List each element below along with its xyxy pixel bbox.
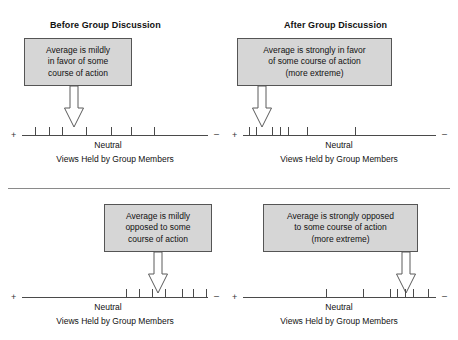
callout-line: Average is mildly (126, 211, 190, 223)
down-arrow-before (63, 86, 85, 130)
callout-line: Average is strongly in favor (263, 45, 365, 57)
axis-tick (326, 289, 327, 297)
axis-tick (139, 289, 140, 297)
callout-line: of some course of action (268, 56, 361, 68)
axis-negative-sign: – (442, 292, 447, 301)
axis-after-opposed: + – (243, 297, 436, 298)
axis-tick (397, 289, 398, 297)
axis-tick (111, 127, 112, 135)
callout-line: Average is strongly opposed (287, 211, 394, 223)
axis-tick (86, 127, 87, 135)
axis-tick (428, 289, 429, 297)
neutral-label-before: Neutral (68, 140, 148, 150)
axis-tick (152, 289, 153, 297)
axis-tick (62, 127, 63, 135)
neutral-label-before-opposed: Neutral (68, 302, 148, 312)
callout-box-after-opposed: Average is strongly opposed to some cour… (263, 204, 418, 252)
axis-tick (131, 127, 132, 135)
axis-tick (249, 127, 250, 135)
horizontal-divider (8, 188, 450, 189)
axis-negative-sign: – (214, 130, 219, 139)
axis-tick (288, 127, 289, 135)
axis-positive-sign: + (232, 131, 237, 140)
axis-tick (307, 127, 308, 135)
axis-tick (413, 289, 414, 297)
neutral-label-after: Neutral (299, 140, 379, 150)
callout-box-before-opposed: Average is mildly opposed to some course… (104, 204, 212, 252)
callout-line: (more extreme) (311, 234, 369, 246)
down-arrow-after (251, 86, 273, 130)
axis-tick (355, 127, 356, 135)
axis-negative-sign: – (214, 292, 219, 301)
axis-tick (363, 289, 364, 297)
axis-tick (49, 127, 50, 135)
axis-line (22, 297, 208, 298)
callout-box-after: Average is strongly in favor of some cou… (237, 38, 392, 86)
panel-before-group-discussion-opposed: Average is mildly opposed to some course… (0, 190, 229, 340)
axis-tick (206, 289, 207, 297)
axis-caption-before-opposed: Views Held by Group Members (25, 316, 205, 326)
axis-positive-sign: + (11, 293, 16, 302)
axis-line (243, 297, 436, 298)
axis-tick (35, 127, 36, 135)
callout-line: course of action (48, 68, 108, 80)
axis-caption-before: Views Held by Group Members (25, 154, 205, 164)
panel-title-before: Before Group Discussion (50, 20, 161, 30)
axis-tick (272, 127, 273, 135)
axis-negative-sign: – (442, 130, 447, 139)
axis-tick (154, 127, 155, 135)
axis-positive-sign: + (232, 293, 237, 302)
axis-tick (256, 127, 257, 135)
axis-tick (405, 289, 406, 297)
callout-line: Average is mildly (46, 45, 110, 57)
axis-tick (193, 289, 194, 297)
axis-tick (165, 289, 166, 297)
neutral-label-after-opposed: Neutral (299, 302, 379, 312)
axis-positive-sign: + (11, 131, 16, 140)
axis-tick (126, 289, 127, 297)
panel-before-group-discussion: Before Group Discussion Average is mildl… (0, 0, 229, 180)
axis-after: + – (243, 135, 436, 136)
axis-tick (280, 127, 281, 135)
axis-tick (390, 289, 391, 297)
panel-title-after: After Group Discussion (284, 20, 387, 30)
axis-caption-after: Views Held by Group Members (249, 154, 429, 164)
axis-before: + – (22, 135, 208, 136)
callout-line: opposed to some (125, 222, 190, 234)
callout-line: (more extreme) (285, 68, 343, 80)
callout-line: in favor of some (48, 56, 108, 68)
axis-line (22, 135, 208, 136)
axis-tick (182, 289, 183, 297)
panel-after-group-discussion: After Group Discussion Average is strong… (229, 0, 458, 180)
axis-caption-after-opposed: Views Held by Group Members (249, 316, 429, 326)
callout-line: to some course of action (294, 222, 387, 234)
axis-line (243, 135, 436, 136)
panel-after-group-discussion-opposed: Average is strongly opposed to some cour… (229, 190, 458, 340)
callout-line: course of action (128, 234, 188, 246)
axis-before-opposed: + – (22, 297, 208, 298)
callout-box-before: Average is mildly in favor of some cours… (24, 38, 132, 86)
